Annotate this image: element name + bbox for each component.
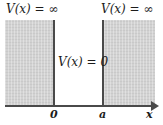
x-tick-label-a: a [99, 109, 106, 120]
x-axis-line [5, 105, 153, 107]
well-wall-at-zero [53, 20, 55, 107]
potential-barrier-left-region [5, 20, 54, 106]
well-potential-label: V(x) = 0 [58, 56, 108, 68]
barrier-left-potential-label: V(x) = ∞ [6, 3, 58, 15]
x-axis-label: x [146, 109, 153, 120]
potential-barrier-right-region [104, 20, 155, 106]
infinite-square-well-figure: V(x) = ∞ V(x) = ∞ V(x) = 0 0 a x [0, 0, 163, 125]
x-tick-label-zero: 0 [50, 109, 58, 120]
barrier-right-potential-label: V(x) = ∞ [101, 3, 153, 15]
